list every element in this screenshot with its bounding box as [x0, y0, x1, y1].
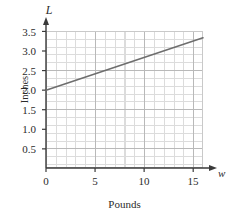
y-tick-label-1-0: 1.0	[0, 124, 36, 135]
y-tick-label-3-5: 3.5	[0, 27, 36, 38]
x-tick-marks	[46, 168, 193, 172]
y-tick-label-3-0: 3.0	[0, 46, 36, 57]
x-axis-arrowhead	[209, 165, 217, 171]
x-tick-label-10: 10	[129, 176, 159, 187]
plot-area-grid	[46, 31, 203, 168]
x-axis-title: Pounds	[46, 198, 203, 210]
y-axis-title: Inches	[19, 60, 30, 120]
x-tick-label-15: 15	[178, 176, 208, 187]
chart-figure: 3.5 3.0 2.5 2.0 1.5 1.0 0.5 0 5 10 15 In…	[0, 0, 235, 221]
x-tick-label-0: 0	[31, 176, 61, 187]
y-tick-label-0-5: 0.5	[0, 144, 36, 155]
x-tick-label-5: 5	[80, 176, 110, 187]
y-axis-variable-label: L	[38, 3, 60, 18]
y-axis-arrowhead	[43, 17, 49, 25]
x-axis-variable-label: w	[218, 167, 234, 179]
